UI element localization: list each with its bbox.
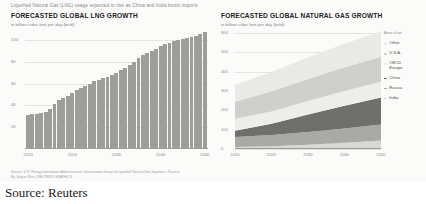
bar: [101, 78, 105, 149]
bar-series: [26, 29, 207, 149]
legend-item[interactable]: Other: [384, 41, 424, 46]
bar: [57, 100, 61, 149]
bar: [66, 96, 70, 149]
gridline: [235, 149, 381, 150]
bar: [168, 43, 172, 149]
bar: [181, 39, 185, 149]
bar: [75, 90, 79, 149]
legend-item-label: OECD Europe: [389, 61, 403, 70]
x-axis-tick: 2020: [267, 152, 276, 157]
x-axis-tick: 2030: [112, 152, 121, 157]
caption-source-reuters: Source: Reuters: [5, 185, 88, 201]
bar: [97, 80, 101, 149]
y-axis-tick: 200: [221, 107, 233, 112]
bar: [70, 93, 74, 149]
bar: [30, 114, 34, 149]
bar: [190, 37, 194, 149]
x-axis-tick: 2010: [24, 152, 33, 157]
x-axis-tick: 2030: [303, 152, 312, 157]
y-axis-tick: 40: [11, 102, 23, 107]
y-axis-tick: 100: [11, 37, 23, 42]
legend-item[interactable]: China: [384, 76, 424, 81]
panel-title-right: FORECASTED GLOBAL NATURAL GAS GROWTH: [221, 12, 382, 19]
legend-item-label: China: [389, 76, 400, 81]
bar: [176, 40, 180, 149]
x-axis-tick: 2010: [230, 152, 239, 157]
graphic-kicker: Liquefied Natural Gas (LNG) usage expect…: [11, 3, 198, 8]
bar: [145, 53, 149, 149]
bar: [106, 77, 110, 149]
y-axis-tick: 80: [11, 59, 23, 64]
legend-item-label: Russia: [389, 86, 402, 91]
x-axis-tick: 2050: [376, 152, 385, 157]
legend-swatch-icon: [384, 88, 387, 90]
bar: [163, 44, 167, 149]
y-axis-tick: 20: [11, 124, 23, 129]
y-axis-tick: 600: [221, 30, 233, 35]
x-axis-tick: 2040: [340, 152, 349, 157]
bar: [26, 115, 30, 149]
source-note: Source: U.S. Energy Information Administ…: [11, 170, 179, 180]
panel-title-left: FORECASTED GLOBAL LNG GROWTH: [11, 12, 138, 19]
bar: [53, 104, 57, 149]
panel-subtitle-right: in billion cubic feet per day (bcfd): [221, 22, 284, 27]
source-note-line-2: By Jahyun Shin | REUTERS GRAPHICS: [11, 175, 179, 180]
bar: [150, 51, 154, 149]
bar: [39, 113, 43, 149]
bar: [92, 81, 96, 149]
bar: [159, 46, 163, 149]
bar: [203, 32, 207, 149]
chart-legend: Area chart OtherU.S.A.OECD EuropeChinaRu…: [384, 30, 424, 106]
legend-item-label: U.S.A.: [389, 51, 401, 56]
reuters-graphic: Liquefied Natural Gas (LNG) usage expect…: [0, 0, 426, 182]
bar: [114, 73, 118, 149]
legend-swatch-icon: [384, 78, 387, 80]
bar: [119, 70, 123, 149]
bar: [198, 34, 202, 149]
y-axis-tick: 500: [221, 49, 233, 54]
legend-swatch-icon: [384, 98, 387, 100]
bar: [128, 65, 132, 149]
bar: [61, 98, 65, 149]
y-axis-tick: 300: [221, 88, 233, 93]
chart-lng-growth: 1008060402020102020203020402050: [11, 29, 208, 157]
legend-item[interactable]: India: [384, 96, 424, 101]
bar: [83, 86, 87, 149]
legend-swatch-icon: [384, 43, 387, 45]
bar: [110, 75, 114, 149]
y-axis-tick: 0: [221, 146, 233, 151]
bar: [172, 41, 176, 149]
y-axis-tick: 400: [221, 69, 233, 74]
y-axis-tick: 100: [221, 127, 233, 132]
x-axis-tick: 2020: [68, 152, 77, 157]
screenshot-root: Liquefied Natural Gas (LNG) usage expect…: [0, 0, 426, 204]
bar: [48, 109, 52, 149]
panel-lng-growth: FORECASTED GLOBAL LNG GROWTH in billion …: [8, 12, 208, 182]
bar: [79, 88, 83, 149]
panel-subtitle-left: in billion cubic feet per day (bcfd): [11, 22, 74, 27]
bar: [194, 36, 198, 149]
x-axis-tick: 2040: [156, 152, 165, 157]
legend-item[interactable]: U.S.A.: [384, 51, 424, 56]
bar: [141, 55, 145, 149]
legend-item-label: Other: [389, 41, 399, 46]
x-axis-tick: 2050: [200, 152, 209, 157]
bar: [154, 49, 158, 149]
bar: [137, 58, 141, 149]
chart-natural-gas-growth: 600500400300200100020102020203020402050: [221, 29, 381, 157]
bar: [185, 38, 189, 149]
legend-item[interactable]: OECD Europe: [384, 61, 424, 70]
bar: [88, 84, 92, 149]
bar: [35, 114, 39, 149]
legend-item[interactable]: Russia: [384, 86, 424, 91]
bar: [132, 62, 136, 149]
bar: [44, 112, 48, 149]
legend-swatch-icon: [384, 63, 387, 65]
x-axis-line: [235, 148, 381, 149]
stacked-area-series: [235, 29, 381, 149]
y-axis-tick: 60: [11, 81, 23, 86]
legend-item-label: India: [389, 96, 398, 101]
legend-swatch-icon: [384, 53, 387, 55]
panel-gas-growth: FORECASTED GLOBAL NATURAL GAS GROWTH in …: [218, 12, 422, 182]
bar: [123, 68, 127, 149]
